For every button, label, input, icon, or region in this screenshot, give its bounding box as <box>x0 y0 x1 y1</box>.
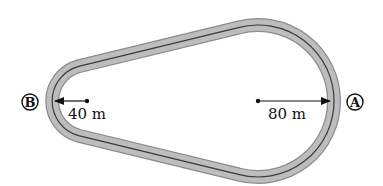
point-b-label: B <box>25 95 36 110</box>
radius-arrow-a <box>256 99 330 103</box>
point-a-marker: A <box>347 94 363 110</box>
radius-arrow-b <box>55 99 89 103</box>
radius-label-a: 80 m <box>268 105 306 123</box>
point-a-label: A <box>349 95 361 110</box>
radius-label-b: 40 m <box>68 105 106 123</box>
track-diagram: B A 40 m 80 m <box>0 0 383 186</box>
point-b-marker: B <box>22 94 38 110</box>
